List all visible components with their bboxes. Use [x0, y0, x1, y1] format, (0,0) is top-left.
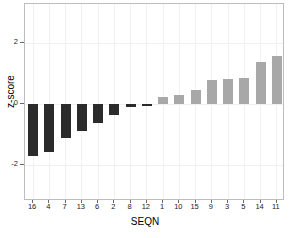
bar: [272, 56, 282, 104]
y-axis-title: z-score: [5, 57, 16, 127]
gridline-vertical: [65, 4, 66, 199]
bar: [44, 104, 54, 152]
bar: [28, 104, 38, 156]
x-axis-title: SEQN: [0, 216, 290, 227]
y-axis-tick-label: -2: [0, 160, 18, 168]
gridline-vertical: [98, 4, 99, 199]
bar: [207, 80, 217, 104]
bar: [142, 104, 152, 106]
bar: [126, 104, 136, 107]
gridline-vertical: [49, 4, 50, 199]
x-axis-tick-label: 11: [265, 203, 287, 211]
bar: [256, 62, 266, 104]
bar: [174, 95, 184, 104]
y-axis-tick: [20, 103, 24, 104]
gridline-vertical: [81, 4, 82, 199]
y-axis-tick: [20, 164, 24, 165]
gridline-vertical: [114, 4, 115, 199]
bar-chart: z-score SEQN 20-216471362812110159351411: [0, 0, 290, 238]
bar: [61, 104, 71, 138]
bar: [191, 90, 201, 104]
gridline-horizontal: [25, 165, 283, 166]
y-axis-tick-label: 0: [0, 99, 18, 107]
bar: [158, 97, 168, 104]
bar: [93, 104, 103, 123]
gridline-vertical: [33, 4, 34, 199]
y-axis-tick: [20, 42, 24, 43]
gridline-horizontal: [25, 43, 283, 44]
bar: [223, 79, 233, 104]
gridline-vertical: [130, 4, 131, 199]
plot-area: [24, 3, 284, 200]
bar: [77, 104, 87, 131]
y-axis-tick-label: 2: [0, 38, 18, 46]
bar: [109, 104, 119, 115]
bar: [239, 78, 249, 104]
gridline-vertical: [146, 4, 147, 199]
